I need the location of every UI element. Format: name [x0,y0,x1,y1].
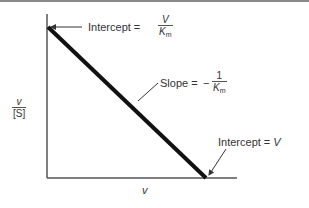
y-intercept-denominator: Km [158,25,173,40]
data-line [48,27,206,178]
slope-numerator: 1 [214,70,224,81]
y-intercept-fraction: V Km [158,14,173,40]
slope-leader-line [138,83,158,101]
y-axis-label-denominator: [S] [12,107,26,119]
slope-sign: − [203,77,209,89]
x-intercept-value: V [273,136,280,148]
slope-denominator: Km [212,81,227,96]
slope-label: Slope = [160,77,198,89]
y-axis-label: v [S] [12,96,26,119]
y-axis-label-numerator: v [15,96,24,107]
plot-area [0,0,309,208]
x-intercept-label: Intercept = V [218,136,281,148]
x-axis-label: v [142,184,148,196]
slope-fraction: 1 Km [212,70,227,96]
x-intercept-arrow [209,149,226,175]
y-intercept-numerator: V [160,14,171,25]
y-intercept-label: Intercept = [88,21,140,33]
